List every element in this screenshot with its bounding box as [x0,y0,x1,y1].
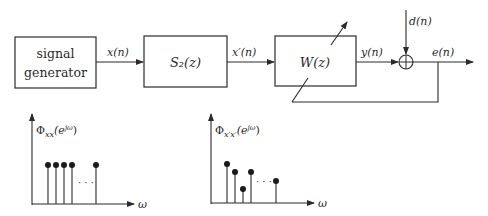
spectrum2-ylabel: Φx′x′(ejω) [215,124,260,139]
e-signal-label: e(n) [432,46,454,59]
signal-generator-label-line2: generator [24,65,87,80]
adaptive-filter-block: W(z) [275,22,356,86]
d-signal-label: d(n) [409,15,432,28]
input-spectrum-plot: Φxx(ejω) ω · · · [32,114,147,211]
spectrum2-xlabel: ω [318,197,327,210]
spectrum1-xlabel: ω [138,198,147,211]
y-signal-label: y(n) [360,46,383,59]
x-prime-signal-label: x′(n) [232,46,256,59]
adaptive-filter-label: W(z) [300,55,330,70]
secondary-path-block: S₂(z) [144,36,227,87]
spectrum1-ellipsis: · · · [78,177,94,188]
signal-generator-block: signal generator [15,37,96,88]
adaptation-arrow-icon [331,22,347,45]
filtered-spectrum-plot: Φx′x′(ejω) ω · · · [211,114,327,210]
spectrum2-ellipsis: · · · [256,176,272,187]
secondary-path-label: S₂(z) [170,55,201,70]
x-signal-label: x(n) [107,46,129,59]
summing-junction-icon [399,55,413,69]
signal-generator-label-line1: signal [37,46,75,61]
spectrum1-ylabel: Φxx(ejω) [36,124,77,139]
feedback-slash-line [292,78,308,102]
block-diagram: signal generator x(n) S₂(z) x′(n) W(z) y… [0,0,488,216]
